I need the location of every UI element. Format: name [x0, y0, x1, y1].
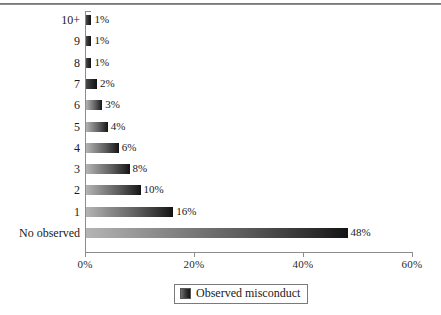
- bar-row: 46%: [0, 142, 441, 163]
- bar: [86, 79, 97, 89]
- bar-value-label: 1%: [94, 34, 109, 47]
- x-axis-line: [85, 252, 412, 253]
- bar-row: 91%: [0, 35, 441, 56]
- bar-value-label: 2%: [100, 77, 115, 90]
- bar-row: 116%: [0, 206, 441, 227]
- bar-value-label: 48%: [351, 226, 371, 239]
- chart-figure: 10+1%91%81%72%63%54%46%38%210%116%No obs…: [0, 0, 441, 315]
- chart-legend: Observed misconduct: [174, 284, 308, 304]
- x-axis-tick: [194, 252, 195, 257]
- bar-value-label: 3%: [105, 98, 120, 111]
- category-label: 2: [0, 184, 80, 196]
- bar: [86, 207, 173, 217]
- bar-value-label: 1%: [94, 56, 109, 69]
- bar-row: 63%: [0, 99, 441, 120]
- bar: [86, 164, 130, 174]
- bar-row: 38%: [0, 163, 441, 184]
- category-label: No observed: [0, 227, 80, 239]
- bar-row: 54%: [0, 121, 441, 142]
- x-axis-tick: [412, 252, 413, 257]
- x-axis-tick: [303, 252, 304, 257]
- category-label: 7: [0, 78, 80, 90]
- x-axis-tick-label: 60%: [402, 258, 423, 271]
- bar: [86, 36, 91, 46]
- bar-value-label: 4%: [111, 120, 126, 133]
- bar-row: 72%: [0, 78, 441, 99]
- bar: [86, 15, 91, 25]
- bar-value-label: 16%: [176, 205, 196, 218]
- category-label: 3: [0, 163, 80, 175]
- bar-row: 81%: [0, 57, 441, 78]
- bar-row: No observed48%: [0, 227, 441, 248]
- category-label: 6: [0, 99, 80, 111]
- legend-swatch-icon: [180, 288, 191, 299]
- bar: [86, 228, 348, 238]
- x-axis-tick-label: 20%: [184, 258, 205, 271]
- bar: [86, 143, 119, 153]
- bar-row: 10+1%: [0, 14, 441, 35]
- bar: [86, 58, 91, 68]
- x-axis-tick-label: 0%: [77, 258, 92, 271]
- bar: [86, 185, 141, 195]
- bar-value-label: 8%: [133, 162, 148, 175]
- category-label: 5: [0, 121, 80, 133]
- category-label: 10+: [0, 14, 80, 26]
- bar-value-label: 1%: [94, 13, 109, 26]
- y-axis-cap-tick: [85, 11, 91, 12]
- bar-row: 210%: [0, 184, 441, 205]
- category-label: 8: [0, 57, 80, 69]
- bar: [86, 122, 108, 132]
- legend-label: Observed misconduct: [196, 287, 300, 300]
- x-axis-tick: [85, 252, 86, 257]
- category-label: 4: [0, 142, 80, 154]
- x-axis-tick-label: 40%: [293, 258, 314, 271]
- category-label: 9: [0, 35, 80, 47]
- bar: [86, 100, 102, 110]
- category-label: 1: [0, 206, 80, 218]
- bar-value-label: 6%: [122, 141, 137, 154]
- plot-area: 10+1%91%81%72%63%54%46%38%210%116%No obs…: [0, 0, 441, 260]
- bar-value-label: 10%: [144, 183, 164, 196]
